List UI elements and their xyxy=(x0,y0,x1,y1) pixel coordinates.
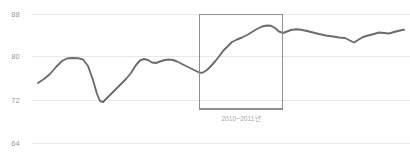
y-axis-tick-labels: 88 80 72 64 xyxy=(11,10,20,148)
y-tick-label-64: 64 xyxy=(11,139,20,148)
line-chart-container: 88 80 72 64 2010~2011년 xyxy=(0,0,410,164)
y-tick-label-80: 80 xyxy=(11,52,20,61)
highlight-period-box xyxy=(200,15,283,110)
gridlines-group xyxy=(32,15,410,144)
y-tick-label-88: 88 xyxy=(11,10,20,19)
data-series-line xyxy=(38,26,404,103)
y-tick-label-72: 72 xyxy=(11,96,20,105)
highlight-period-label: 2010~2011년 xyxy=(221,114,260,122)
chart-canvas: 88 80 72 64 2010~2011년 xyxy=(0,0,410,164)
